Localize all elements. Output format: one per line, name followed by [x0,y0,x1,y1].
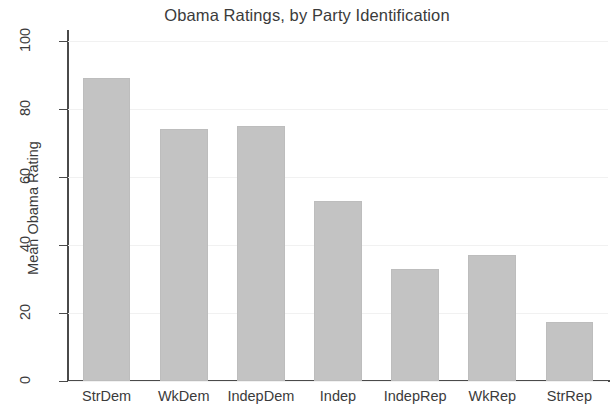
x-tick-label: WkDem [145,388,222,404]
x-tick-label: IndepRep [377,388,454,404]
y-tick-mark [59,177,68,178]
x-tick-label: StrDem [68,388,145,404]
bar [314,201,362,381]
bar [468,255,516,381]
y-tick-mark [59,313,68,314]
y-tick-mark [59,381,68,382]
gridline [68,109,608,110]
bar [237,126,285,381]
bar [391,269,439,381]
chart-title: Obama Ratings, by Party Identification [0,6,614,25]
y-tick-label: 40 [17,219,33,269]
plot-area [68,41,608,381]
y-tick-label: 80 [17,83,33,133]
y-tick-label: 0 [17,355,33,405]
gridline [68,177,608,178]
y-axis-title: Mean Obama Rating [25,113,41,303]
gridline [68,381,608,382]
x-tick-label: Indep [299,388,376,404]
x-tick-label: WkRep [454,388,531,404]
y-tick-label: 20 [17,287,33,337]
bar [160,129,208,381]
y-tick-mark [59,245,68,246]
y-tick-label: 100 [17,15,33,65]
bar [546,322,594,382]
y-tick-mark [59,41,68,42]
bar [83,78,131,381]
chart-figure: Obama Ratings, by Party Identification M… [0,0,614,418]
y-tick-label: 60 [17,151,33,201]
gridline [68,41,608,42]
y-tick-mark [59,109,68,110]
x-tick-label: StrRep [531,388,608,404]
x-tick-label: IndepDem [222,388,299,404]
